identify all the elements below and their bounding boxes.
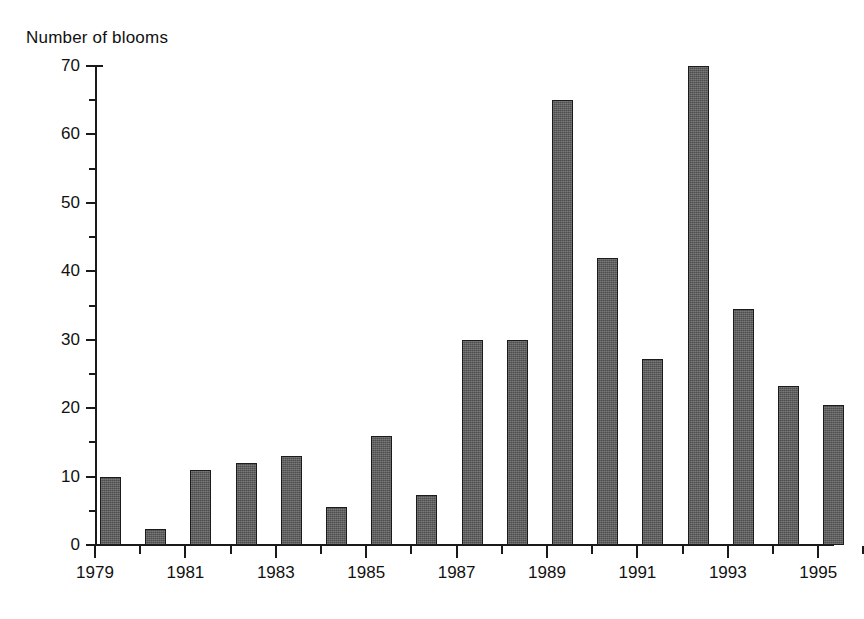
x-axis-major-tick	[94, 546, 96, 558]
bar	[642, 359, 663, 545]
y-axis-minor-tick	[89, 510, 95, 512]
bar	[190, 470, 211, 545]
y-axis-tick-label: 40	[36, 262, 80, 279]
x-axis-minor-tick	[139, 546, 141, 554]
bar	[823, 405, 844, 545]
y-axis-major-tick	[86, 476, 95, 478]
y-axis-tick-label: 0	[36, 536, 80, 553]
y-axis-major-tick	[86, 202, 95, 204]
y-axis-minor-tick	[89, 441, 95, 443]
x-axis-major-tick	[817, 546, 819, 558]
x-axis-tick-label: 1979	[55, 563, 135, 583]
bar	[326, 507, 347, 545]
y-axis-tick-label: 30	[36, 331, 80, 348]
y-axis-major-tick	[86, 339, 95, 341]
y-axis-tick-label: 70	[36, 57, 80, 74]
y-axis-minor-tick	[89, 305, 95, 307]
x-axis-tick-label: 1989	[507, 563, 587, 583]
x-axis-major-tick	[365, 546, 367, 558]
bar	[688, 66, 709, 545]
bar	[281, 456, 302, 545]
x-axis-major-tick	[727, 546, 729, 558]
y-axis-minor-tick	[89, 236, 95, 238]
y-axis-tick-label-wrap: 10	[30, 468, 80, 485]
x-axis-tick-label: 1981	[145, 563, 225, 583]
x-axis-minor-tick	[230, 546, 232, 554]
y-axis-major-tick	[86, 270, 95, 272]
bar	[145, 529, 166, 545]
y-axis-tick-label-wrap: 20	[30, 399, 80, 416]
x-axis-tick-label: 1995	[778, 563, 858, 583]
x-axis-minor-tick	[772, 546, 774, 554]
bar	[733, 309, 754, 545]
x-axis-minor-tick	[682, 546, 684, 554]
y-axis-tick-label-wrap: 30	[30, 331, 80, 348]
bar	[507, 340, 528, 545]
y-axis-tick-label-wrap: 40	[30, 262, 80, 279]
y-axis-tick-label-wrap: 60	[30, 125, 80, 142]
y-axis-major-tick	[86, 65, 95, 67]
y-axis-tick-label: 60	[36, 125, 80, 142]
y-axis-tick-label: 10	[36, 468, 80, 485]
y-axis-tick-label: 20	[36, 399, 80, 416]
x-axis-major-tick	[456, 546, 458, 558]
y-axis-minor-tick	[89, 99, 95, 101]
x-axis-major-tick	[546, 546, 548, 558]
x-axis-major-tick	[184, 546, 186, 558]
y-axis-major-tick	[86, 407, 95, 409]
bar	[597, 258, 618, 545]
bar	[462, 340, 483, 545]
bar	[416, 495, 437, 545]
bar	[371, 436, 392, 545]
y-axis-top-cap	[95, 65, 103, 67]
x-axis-tick-label: 1985	[326, 563, 406, 583]
y-axis-tick-label-wrap: 70	[30, 57, 80, 74]
x-axis-tick-label: 1991	[597, 563, 677, 583]
bar	[552, 100, 573, 545]
x-axis-tick-label: 1983	[236, 563, 316, 583]
y-axis-major-tick	[86, 133, 95, 135]
x-axis-minor-tick	[410, 546, 412, 554]
y-axis-minor-tick	[89, 373, 95, 375]
x-axis-major-tick	[636, 546, 638, 558]
bar	[236, 463, 257, 545]
y-axis-line	[95, 65, 97, 546]
bar	[100, 477, 121, 545]
x-axis-tick-label: 1987	[417, 563, 497, 583]
x-axis-tick-label: 1993	[688, 563, 768, 583]
bar	[778, 386, 799, 545]
x-axis-major-tick	[275, 546, 277, 558]
x-axis-minor-tick	[501, 546, 503, 554]
y-axis-tick-label-wrap: 0	[30, 536, 80, 553]
x-axis-minor-tick	[320, 546, 322, 554]
y-axis-tick-label: 50	[36, 194, 80, 211]
y-axis-minor-tick	[89, 168, 95, 170]
y-axis-tick-label-wrap: 50	[30, 194, 80, 211]
x-axis-minor-tick	[591, 546, 593, 554]
